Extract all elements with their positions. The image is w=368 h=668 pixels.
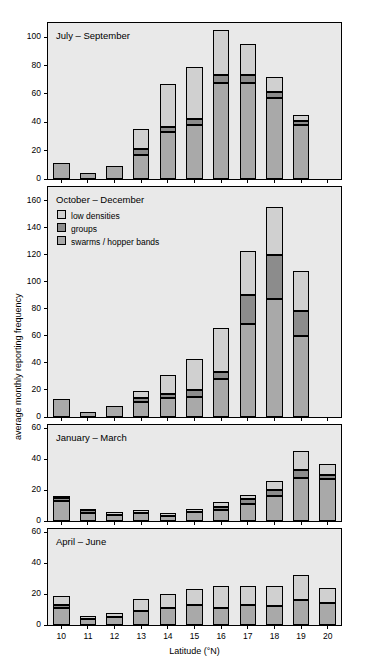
bar-segment [213,502,230,507]
bar-segment [133,599,150,611]
bar-segment [80,412,97,417]
x-tick [114,179,115,183]
legend-swatch [57,210,66,219]
y-tick-label: 100 [17,276,41,286]
y-tick [44,459,48,460]
bar-segment [186,125,203,179]
bar-segment [213,83,230,179]
x-tick [327,417,328,421]
x-tick [301,179,302,183]
legend-swatch [57,236,66,245]
x-tick [247,521,248,525]
x-tick [87,179,88,183]
y-tick [44,335,48,336]
x-tick [141,417,142,421]
y-tick [44,417,48,418]
x-tick [87,417,88,421]
y-tick-label: 80 [17,60,41,70]
y-tick [44,150,48,151]
bar-segment [293,271,310,312]
bar-segment [80,513,97,521]
x-tick [301,625,302,629]
bar-segment [266,586,283,606]
bar-segment [186,397,203,417]
bar-segment [80,509,97,511]
bar-segment [319,464,336,475]
bar-segment [240,605,257,625]
y-tick-label: 20 [17,588,41,598]
bar-segment [240,75,257,82]
x-tick [61,179,62,183]
bar-segment [106,613,123,618]
bar-segment [240,586,257,605]
bar-segment [106,512,123,515]
bar-segment [160,394,177,398]
chart-panel-1 [47,22,342,180]
y-tick-label: 0 [17,173,41,183]
bar-segment [186,509,203,512]
y-tick [44,227,48,228]
bar-segment [160,516,177,521]
x-tick-label: 15 [183,631,207,641]
y-tick [44,625,48,626]
x-tick [61,521,62,525]
x-tick-label: 17 [236,631,260,641]
x-tick-label: 13 [129,631,153,641]
bar-segment [293,125,310,179]
bar-segment [240,504,257,521]
x-tick-label: 10 [49,631,73,641]
bar-segment [293,478,310,521]
x-tick-label: 20 [316,631,340,641]
bar-segment [293,115,310,121]
x-tick [61,417,62,421]
bar-segment [240,499,257,504]
y-tick [44,532,48,533]
bar-segment [213,586,230,608]
bar-segment [53,498,70,501]
x-tick-label: 14 [156,631,180,641]
panel-title: July – September [56,30,130,41]
bar-segment [53,501,70,521]
bar-segment [160,127,177,133]
x-axis-title: Latitude (°N) [47,646,342,656]
bar-segment [213,372,230,379]
x-tick [194,179,195,183]
legend-label: swarms / hopper bands [71,237,159,247]
bar-segment [80,510,97,513]
x-tick [327,521,328,525]
x-tick-label: 19 [289,631,313,641]
legend-label: groups [71,224,97,234]
x-tick [274,179,275,183]
bar-segment [133,129,150,149]
y-tick [44,93,48,94]
bar-segment [213,379,230,417]
bar-segment [266,481,283,490]
bar-segment [240,251,257,296]
bar-segment [266,92,283,98]
bar-segment [106,406,123,417]
bar-segment [80,619,97,625]
y-tick [44,594,48,595]
bar-segment [266,496,283,521]
bar-segment [186,359,203,390]
bar-segment [240,495,257,500]
bar-segment [293,470,310,478]
bar-segment [213,30,230,75]
bar-segment [319,475,336,480]
y-tick-label: 40 [17,453,41,463]
bar-segment [293,336,310,417]
bar-segment [53,163,70,179]
x-tick [167,625,168,629]
bar-segment [160,513,177,516]
bar-segment [133,402,150,417]
bar-segment [213,328,230,373]
bar-segment [213,608,230,625]
y-tick-label: 20 [17,145,41,155]
x-tick [274,521,275,525]
y-tick-label: 40 [17,116,41,126]
bar-segment [319,479,336,521]
y-tick [44,179,48,180]
bar-segment [160,398,177,417]
x-tick [327,625,328,629]
y-tick [44,281,48,282]
